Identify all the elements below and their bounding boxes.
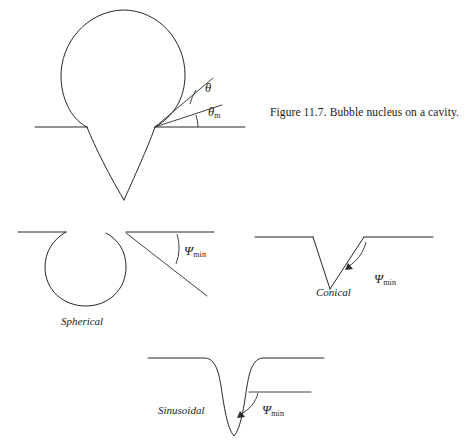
theta-symbol: θ (205, 81, 211, 95)
cavity-wall-left (87, 127, 124, 200)
psi-symbol: Ψ (184, 243, 193, 258)
theta-m-angle-arc (196, 115, 198, 127)
theta-m-label: θm (208, 106, 221, 120)
panel-sinusoidal (148, 358, 324, 436)
theta-label: θ (205, 82, 211, 95)
conical-cavity-wall-left (313, 237, 330, 289)
conical-cavity-wall-right (330, 237, 364, 289)
sinusoidal-panel-label: Sinusoidal (158, 405, 204, 416)
theta-m-subscript: m (214, 111, 220, 120)
panel-conical (255, 237, 433, 289)
spherical-tangent-line (126, 233, 207, 296)
sinusoidal-psi-min-label: Ψmin (262, 403, 284, 418)
spherical-cavity-profile (45, 232, 126, 306)
psi-min-subscript: min (383, 278, 396, 287)
spherical-panel-label: Spherical (61, 316, 103, 327)
psi-symbol: Ψ (374, 271, 383, 286)
figure-line-art (0, 0, 475, 446)
figure-container: Figure 11.7. Bubble nucleus on a cavity.… (0, 0, 475, 446)
cavity-wall-right (124, 127, 155, 200)
bubble-interface (61, 10, 185, 127)
psi-min-subscript: min (193, 250, 206, 259)
psi-min-subscript: min (271, 409, 284, 418)
sinusoidal-cavity-profile (148, 358, 324, 436)
conical-psi-min-arrow-arc (349, 242, 366, 266)
figure-caption: Figure 11.7. Bubble nucleus on a cavity. (270, 107, 459, 119)
sinusoidal-psi-min-arc (241, 393, 258, 414)
psi-symbol: Ψ (262, 402, 271, 417)
conical-psi-min-label: Ψmin (374, 272, 396, 287)
spherical-psi-min-label: Ψmin (184, 244, 206, 259)
spherical-psi-min-arc (176, 234, 179, 264)
conical-panel-label: Conical (316, 287, 351, 298)
